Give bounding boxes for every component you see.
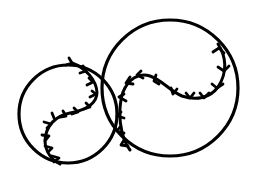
large-baseball [102, 20, 238, 156]
stitch-chevron [212, 84, 223, 88]
stitch-chevron [66, 58, 72, 65]
baseballs-illustration [0, 0, 253, 183]
baseballs-drawing [0, 0, 253, 183]
ball-seam [120, 44, 225, 150]
stitch-chevron [52, 113, 54, 118]
